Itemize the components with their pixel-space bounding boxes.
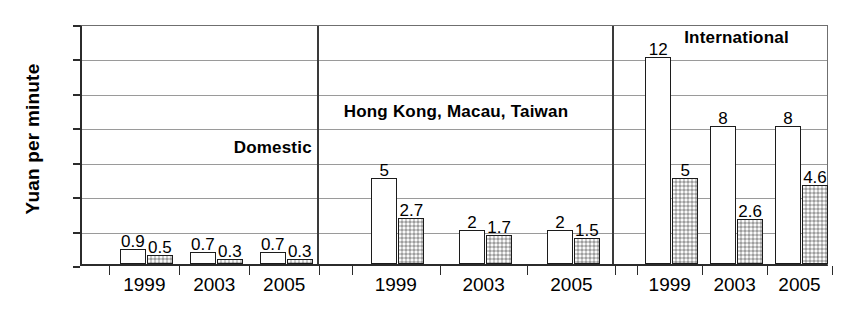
bar-value-label: 0.5 <box>148 239 172 256</box>
bar-white-bar-international-2005[interactable] <box>775 126 801 264</box>
bar-value-label: 5 <box>380 162 389 179</box>
x-tick-mark <box>527 266 528 275</box>
x-axis-label-1999: 1999 <box>123 274 165 296</box>
bar-white-bar-international-2003[interactable] <box>710 126 736 264</box>
plot-area: 0.90.50.70.30.70.352.721.721.512582.684.… <box>80 25 828 266</box>
panel-label-hong-kong: Hong Kong, Macau, Taiwan <box>344 102 569 122</box>
y-tick-mark-14 <box>73 25 80 27</box>
x-axis-label-1999: 1999 <box>375 274 417 296</box>
y-axis-title: Yuan per minute <box>22 14 44 264</box>
x-tick-mark <box>440 266 441 275</box>
x-tick-mark <box>767 266 768 275</box>
panel-divider-1 <box>317 26 319 264</box>
bar-value-label: 8 <box>718 110 727 127</box>
bar-value-label: 0.3 <box>288 243 312 260</box>
bar-grey-bar-international-1999[interactable] <box>672 178 698 264</box>
panel-label-international: International <box>684 28 789 48</box>
x-tick-mark <box>702 266 703 275</box>
bar-value-label: 2.6 <box>738 203 762 220</box>
bar-value-label: 12 <box>649 41 668 58</box>
x-axis-label-2003: 2003 <box>462 274 504 296</box>
x-axis-label-2003: 2003 <box>193 274 235 296</box>
y-tick-mark-6 <box>73 163 80 165</box>
gridline-10 <box>82 95 827 96</box>
bar-white-bar-hong-kong-2005[interactable] <box>547 230 573 264</box>
y-tick-mark-8 <box>73 128 80 130</box>
bar-value-label: 8 <box>783 110 792 127</box>
bar-white-bar-hong-kong-1999[interactable] <box>371 178 397 264</box>
y-tick-mark-4 <box>73 197 80 199</box>
bar-value-label: 4.6 <box>803 169 827 186</box>
bar-value-label: 0.3 <box>218 243 242 260</box>
bar-value-label: 1.5 <box>575 222 599 239</box>
x-tick-mark <box>109 266 110 275</box>
x-tick-mark <box>615 266 616 275</box>
y-tick-mark-12 <box>73 59 80 61</box>
panel-label-domestic: Domestic <box>234 138 312 158</box>
bar-value-label: 5 <box>680 162 689 179</box>
bar-value-label: 1.7 <box>487 219 511 236</box>
x-axis-label-2005: 2005 <box>778 274 820 296</box>
bar-grey-bar-international-2005[interactable] <box>802 185 828 264</box>
bar-value-label: 2 <box>467 214 476 231</box>
bar-value-label: 0.9 <box>121 233 145 250</box>
bar-white-bar-international-1999[interactable] <box>645 57 671 264</box>
bar-grey-bar-international-2003[interactable] <box>737 219 763 264</box>
bar-value-label: 2 <box>555 214 564 231</box>
gridline-12 <box>82 60 827 61</box>
x-tick-mark <box>179 266 180 275</box>
x-axis-label-2003: 2003 <box>713 274 755 296</box>
bar-grey-bar-hong-kong-2003[interactable] <box>486 235 512 264</box>
x-tick-mark <box>352 266 353 275</box>
y-tick-mark-0 <box>73 266 80 268</box>
x-axis-label-2005: 2005 <box>550 274 592 296</box>
x-tick-mark <box>637 266 638 275</box>
bar-value-label: 0.7 <box>191 236 215 253</box>
x-axis-label-1999: 1999 <box>649 274 691 296</box>
bar-value-label: 0.7 <box>261 236 285 253</box>
bar-grey-bar-hong-kong-1999[interactable] <box>398 218 424 264</box>
bar-white-bar-hong-kong-2003[interactable] <box>459 230 485 264</box>
y-tick-mark-2 <box>73 232 80 234</box>
bar-grey-bar-hong-kong-2005[interactable] <box>574 238 600 264</box>
bar-value-label: 2.7 <box>399 202 423 219</box>
x-axis-label-2005: 2005 <box>263 274 305 296</box>
bar-chart: Yuan per minute 02468101214 0.90.50.70.3… <box>0 0 848 312</box>
x-tick-mark <box>249 266 250 275</box>
x-tick-mark <box>832 266 833 275</box>
y-tick-mark-10 <box>73 94 80 96</box>
bar-white-bar-domestic-1999[interactable] <box>120 249 146 264</box>
panel-divider-2 <box>612 26 614 264</box>
x-tick-mark <box>319 266 320 275</box>
